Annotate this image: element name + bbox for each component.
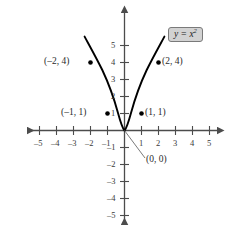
y-tick-label-3: 3 (111, 75, 115, 84)
curve-equation-exponent: 2 (194, 27, 197, 34)
y-tick-label-4: 4 (111, 58, 115, 67)
x-tick-label--2: –2 (85, 139, 94, 148)
x-tick-label-4: 4 (190, 139, 194, 148)
x-tick-label--5: –5 (34, 139, 43, 148)
point-label-neg2-4: (–2, 4) (44, 57, 69, 67)
marker-neg2-4 (88, 60, 93, 65)
parabola-figure: –5 –4 –3 –2 –1 1 2 3 4 5 5 4 3 2 1 –1 –2… (0, 0, 240, 237)
point-label-2-4: (2, 4) (162, 57, 183, 67)
y-tick-label--3: –3 (107, 177, 116, 186)
curve-equation-text: y = x (174, 29, 194, 39)
y-tick-label-1: 1 (111, 109, 115, 118)
point-label-0-0: (0, 0) (146, 155, 167, 165)
x-tick-label-2: 2 (156, 139, 160, 148)
x-tick-label-5: 5 (207, 139, 211, 148)
x-tick-label-3: 3 (173, 139, 177, 148)
marker-1-1 (139, 111, 144, 116)
y-tick-label--1: –1 (107, 143, 116, 152)
x-tick-label--4: –4 (51, 139, 60, 148)
x-tick-label-1: 1 (139, 139, 143, 148)
point-label-1-1: (1, 1) (145, 108, 166, 118)
y-tick-label--5: –5 (107, 211, 116, 220)
marker-neg1-1 (105, 111, 110, 116)
marker-2-4 (156, 60, 161, 65)
x-tick-label--3: –3 (68, 139, 77, 148)
curve-equation-label: y = x2 (168, 27, 203, 42)
y-tick-label--4: –4 (107, 194, 116, 203)
y-tick-label--2: –2 (107, 160, 116, 169)
point-label-neg1-1: (–1, 1) (61, 108, 86, 118)
y-tick-label-2: 2 (111, 92, 115, 101)
coordinate-plane (0, 0, 240, 237)
y-tick-label-5: 5 (111, 41, 115, 50)
